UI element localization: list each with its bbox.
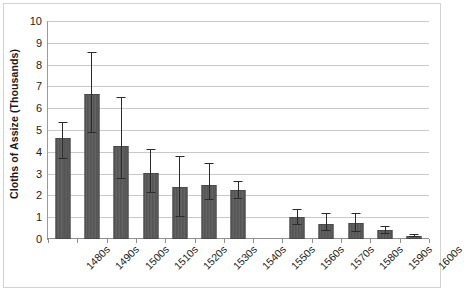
error-bar-cap [117,178,126,179]
error-bar-line [355,213,356,233]
bar-slot [107,21,136,239]
bar-slot [195,21,224,239]
error-bar [117,97,126,179]
error-bar-cap [146,192,155,193]
bar-slot [48,21,77,239]
error-bar-cap [381,233,390,234]
error-bar [146,149,155,194]
error-bar-line [91,52,92,134]
y-axis-title: Cloths of Assize (Thousands) [8,24,20,224]
x-axis-tick-labels: 1480s1490s1500s1510s1520s1530s1540s1550s… [48,243,429,289]
x-axis-tick-label: 1490s [113,243,142,272]
x-axis-tick-label: 1570s [347,243,376,272]
error-bar-line [62,122,63,159]
error-bar-cap [351,213,360,214]
bar-slot [282,21,311,239]
error-bar [87,52,96,134]
bar-slot [341,21,370,239]
error-bar-line [121,97,122,179]
error-bar-cap [322,230,331,231]
x-axis-tick-label: 1550s [288,243,317,272]
error-bar-cap [293,209,302,210]
x-axis-tick-label: 1480s [83,243,112,272]
x-axis-tick-label: 1580s [376,243,405,272]
x-axis-tick-label: 1530s [230,243,259,272]
error-bar-line [179,156,180,217]
x-axis-tick-label: 1560s [318,243,347,272]
x-axis-tick-label: 1540s [259,243,288,272]
x-axis-tick [429,239,430,243]
error-bar-cap [87,52,96,53]
error-bar-cap [293,224,302,225]
bar-slot [77,21,106,239]
error-bar-cap [322,213,331,214]
bar-slot [165,21,194,239]
error-bar [381,226,390,234]
error-bar-cap [351,231,360,232]
error-bar [351,213,360,233]
error-bar-cap [175,156,184,157]
error-bar-cap [381,226,390,227]
error-bar-cap [205,163,214,164]
x-axis-tick-label: 1510s [171,243,200,272]
error-bar-cap [146,149,155,150]
error-bar-cap [234,198,243,199]
bar-slot [253,21,282,239]
error-bar [410,234,419,237]
bar-slot [136,21,165,239]
error-bar-cap [205,199,214,200]
error-bar-line [150,149,151,194]
bar-slot [224,21,253,239]
error-bar-line [297,209,298,225]
error-bar-cap [58,158,67,159]
error-bar [293,209,302,225]
error-bar-cap [58,122,67,123]
error-bar [175,156,184,217]
error-bar [322,213,331,232]
error-bar-cap [117,97,126,98]
error-bar-cap [87,132,96,133]
error-bar [205,163,214,200]
error-bar [58,122,67,159]
error-bar-line [238,181,239,198]
error-bar [234,181,243,198]
x-axis-tick-label: 1500s [142,243,171,272]
error-bar-cap [234,181,243,182]
bar-slot [370,21,399,239]
bar-slot [312,21,341,239]
error-bar-line [326,213,327,232]
error-bar-line [209,163,210,200]
error-bar-cap [410,236,419,237]
error-bar-cap [175,216,184,217]
bar-slot [400,21,429,239]
plot-area [48,21,429,239]
x-axis-tick-label: 1520s [201,243,230,272]
